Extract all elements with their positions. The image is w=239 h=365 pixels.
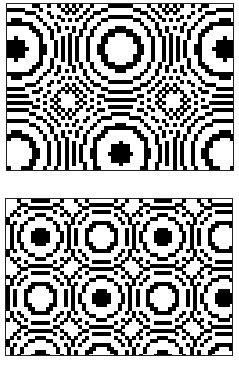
bottom-moire-pattern: [6, 199, 232, 355]
bottom-moire-panel: [5, 198, 233, 356]
top-moire-pattern: [7, 4, 233, 170]
top-moire-panel: [6, 3, 234, 171]
